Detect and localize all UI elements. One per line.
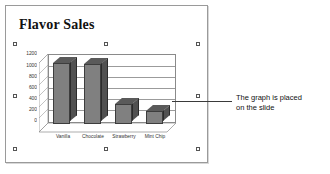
page-title: Flavor Sales <box>19 17 95 33</box>
selection-handle-top-center[interactable] <box>104 42 108 46</box>
bar-front-face <box>146 111 163 124</box>
bar-side-face <box>70 57 77 121</box>
y-tick-label: 600 <box>29 85 37 90</box>
annotation-leader-line <box>172 101 232 102</box>
annotation-line-2: on the slide <box>236 103 328 113</box>
bar-mint-chip[interactable] <box>146 111 163 124</box>
y-tick-label: 0 <box>34 118 37 123</box>
annotation-callout: The graph is placed on the slide <box>236 93 328 112</box>
bar-strawberry[interactable] <box>115 104 132 124</box>
selection-handle-top-right[interactable] <box>196 42 200 46</box>
chart-object[interactable]: 1200 1000 800 600 400 200 0 <box>20 49 195 147</box>
bar-vanilla[interactable] <box>53 63 70 124</box>
screenshot-root: Flavor Sales 1200 1000 800 600 400 200 0 <box>0 0 330 174</box>
annotation-line-1: The graph is placed <box>236 93 328 103</box>
bar-side-face <box>101 58 108 121</box>
bar-front-face <box>53 63 70 124</box>
x-axis-labels: Vanilla Chocolate Strawberry Mint Chip <box>39 134 176 144</box>
selection-handle-bottom-right[interactable] <box>196 147 200 151</box>
selection-handle-middle-left[interactable] <box>13 94 17 98</box>
y-tick-label: 400 <box>29 96 37 101</box>
bar-front-face <box>115 104 132 124</box>
y-tick-label: 1200 <box>26 51 37 56</box>
bar-chart: 1200 1000 800 600 400 200 0 <box>20 49 195 147</box>
y-tick-label: 200 <box>29 107 37 112</box>
y-tick-label: 800 <box>29 74 37 79</box>
selection-handle-bottom-center[interactable] <box>104 147 108 151</box>
bar-chocolate[interactable] <box>84 64 101 124</box>
y-tick-label: 1000 <box>26 63 37 68</box>
bar-series <box>39 54 176 133</box>
selection-handle-middle-right[interactable] <box>196 94 200 98</box>
plot-area <box>39 54 176 132</box>
selection-handle-top-left[interactable] <box>13 42 17 46</box>
selection-handle-bottom-left[interactable] <box>13 147 17 151</box>
presentation-slide[interactable]: Flavor Sales 1200 1000 800 600 400 200 0 <box>5 5 208 163</box>
y-axis-labels: 1200 1000 800 600 400 200 0 <box>20 54 37 132</box>
x-tick-label: Mint Chip <box>133 134 176 141</box>
bar-front-face <box>84 64 101 124</box>
